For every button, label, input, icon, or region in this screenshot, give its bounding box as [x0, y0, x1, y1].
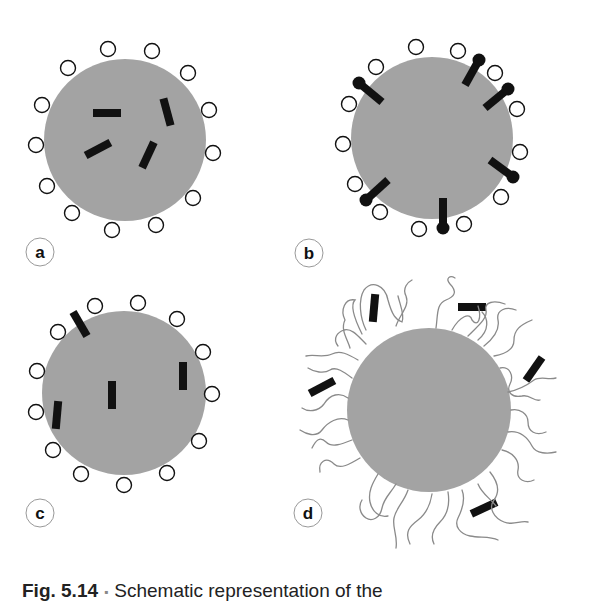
svg-text:b: b [304, 244, 314, 263]
surface-ligand-icon [412, 222, 427, 237]
surface-ligand-icon [451, 44, 466, 59]
figure-number: Fig. 5.14 [22, 580, 98, 601]
surface-ligand-icon [51, 325, 66, 340]
panel-b: b [295, 40, 528, 268]
molecule-bar-icon [108, 381, 116, 409]
surface-ligand-icon [74, 467, 89, 482]
surface-ligand-icon [348, 177, 363, 192]
surface-ligand-icon [457, 217, 472, 232]
surface-ligand-icon [40, 179, 55, 194]
surface-ligand-icon [35, 98, 50, 113]
surface-ligand-icon [369, 60, 384, 75]
surface-ligand-icon [494, 190, 509, 205]
surface-ligand-icon [117, 478, 132, 493]
panel-label-b: b [295, 239, 323, 267]
surface-ligand-icon [131, 296, 146, 311]
surface-ligand-icon [149, 218, 164, 233]
surface-ligand-icon [510, 102, 525, 117]
caption-text: Schematic representation of the [114, 580, 382, 601]
surface-ligand-icon [513, 145, 528, 160]
molecule-bar-icon [179, 362, 187, 390]
surface-ligand-icon [101, 42, 116, 57]
panel-a: a [26, 42, 221, 267]
molecule-bar-icon [458, 303, 486, 311]
surface-ligand-icon [65, 206, 80, 221]
surface-ligand-icon [88, 299, 103, 314]
svg-text:a: a [35, 243, 45, 262]
panel-d: d [294, 294, 545, 527]
surface-ligand-icon [29, 405, 44, 420]
surface-ligand-icon [206, 146, 221, 161]
svg-text:d: d [303, 504, 313, 523]
molecule-bar-icon [308, 377, 336, 397]
surface-ligand-icon [160, 466, 175, 481]
surface-ligand-icon [488, 66, 503, 81]
surface-ligand-icon [29, 138, 44, 153]
particle-core [42, 311, 206, 475]
surface-ligand-icon [145, 44, 160, 59]
panel-label-a: a [26, 238, 54, 266]
figure-caption: Fig. 5.14▪Schematic representation of th… [22, 580, 383, 602]
surface-ligand-icon [46, 443, 61, 458]
particle-core [44, 59, 206, 221]
surface-ligand-icon [170, 312, 185, 327]
caption-separator: ▪ [104, 585, 108, 599]
surface-ligand-icon [30, 364, 45, 379]
surface-ligand-icon [192, 434, 207, 449]
surface-ligand-icon [196, 345, 211, 360]
molecule-bar-icon [369, 294, 379, 323]
particle-core [347, 328, 511, 492]
surface-ligand-icon [409, 40, 424, 55]
panel-label-d: d [294, 499, 322, 527]
surface-ligand-icon [181, 66, 196, 81]
surface-ligand-icon [205, 387, 220, 402]
molecule-bar-icon [93, 109, 121, 117]
surface-ligand-icon [186, 191, 201, 206]
surface-ligand-icon [61, 61, 76, 76]
surface-ligand-icon [105, 223, 120, 238]
surface-ligand-icon [373, 205, 388, 220]
svg-text:c: c [35, 504, 44, 523]
panel-label-c: c [26, 499, 54, 527]
surface-ligand-icon [342, 97, 357, 112]
panel-c: c [26, 296, 220, 528]
surface-ligand-icon [336, 137, 351, 152]
surface-ligand-icon [202, 103, 217, 118]
